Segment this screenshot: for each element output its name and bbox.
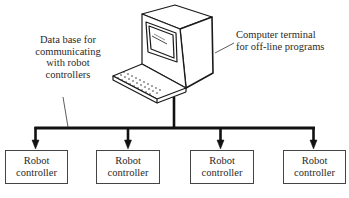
robot-controller-box: Robot controller [190,150,254,184]
controller-label-line2: controller [6,167,67,179]
arrow-down-icon [217,140,224,149]
controller-label-line1: Robot [97,155,159,167]
database-label: Data base for communicating with robot c… [28,34,108,80]
robot-controller-box: Robot controller [283,150,346,184]
controller-label-line2: controller [191,167,253,179]
arrow-down-icon [310,140,317,149]
database-label-line: with robot [28,57,108,69]
bus-drops [32,127,317,149]
controller-label-line1: Robot [6,155,67,167]
database-label-line: Data base for [28,34,108,46]
terminal-label-line: Computer terminal [236,29,349,41]
controller-label-line1: Robot [191,155,253,167]
terminal-label: Computer terminal for off-line programs [236,29,349,52]
terminal-leader-line [215,43,234,53]
robot-controller-box: Robot controller [96,150,160,184]
database-label-line: communicating [28,46,108,58]
terminal-label-line: for off-line programs [236,41,349,53]
database-leader-line [63,97,68,127]
controller-label-line2: controller [97,167,159,179]
arrow-down-icon [32,140,39,149]
database-label-line: controllers [28,69,108,81]
controller-label-line2: controller [284,167,345,179]
computer-terminal-icon [113,5,213,103]
arrow-down-icon [125,140,132,149]
controller-label-line1: Robot [284,155,345,167]
robot-controller-box: Robot controller [5,150,68,184]
